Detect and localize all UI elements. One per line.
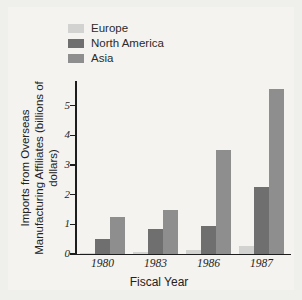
- bar-group: [133, 82, 178, 254]
- bar-group: [186, 82, 231, 254]
- bar-europe: [186, 250, 201, 254]
- legend-item-europe: Europe: [68, 21, 218, 36]
- y-tick-label: 3: [56, 159, 70, 170]
- x-tick-label: 1986: [185, 257, 233, 269]
- chart-figure: Europe North America Asia Imports from O…: [0, 0, 302, 300]
- bar-north-america: [201, 226, 216, 254]
- bar-asia: [269, 89, 284, 254]
- x-tick-label: 1980: [79, 257, 127, 269]
- legend-label-asia: Asia: [91, 52, 113, 65]
- bar-asia: [163, 210, 178, 254]
- y-tick-label: 4: [56, 129, 70, 140]
- y-tick-label: 1: [56, 218, 70, 229]
- legend-label-europe: Europe: [91, 22, 128, 35]
- y-tick-label: 0: [56, 248, 70, 259]
- y-tick-label: 5: [56, 100, 70, 111]
- plot-area: [76, 82, 288, 254]
- bar-asia: [216, 150, 231, 254]
- bar-europe: [133, 252, 148, 254]
- bar-asia: [110, 217, 125, 254]
- bar-europe: [239, 246, 254, 254]
- bar-group: [80, 82, 125, 254]
- chart-legend: Europe North America Asia: [68, 21, 218, 66]
- x-tick-label: 1987: [238, 257, 286, 269]
- legend-item-north-america: North America: [68, 36, 218, 51]
- chart-paper-background: Europe North America Asia Imports from O…: [8, 7, 294, 290]
- x-axis-title: Fiscal Year: [8, 275, 302, 289]
- bar-north-america: [95, 239, 110, 254]
- legend-item-asia: Asia: [68, 51, 218, 66]
- legend-swatch-europe: [68, 24, 84, 33]
- y-tick-label: 2: [56, 189, 70, 200]
- bar-north-america: [254, 187, 269, 254]
- legend-label-north-america: North America: [91, 37, 164, 50]
- bar-europe: [80, 253, 95, 255]
- x-tick-label: 1983: [132, 257, 180, 269]
- legend-swatch-north-america: [68, 39, 84, 48]
- y-axis-ticks: 012345: [8, 7, 70, 300]
- bar-north-america: [148, 229, 163, 254]
- legend-swatch-asia: [68, 54, 84, 63]
- bar-group: [239, 82, 284, 254]
